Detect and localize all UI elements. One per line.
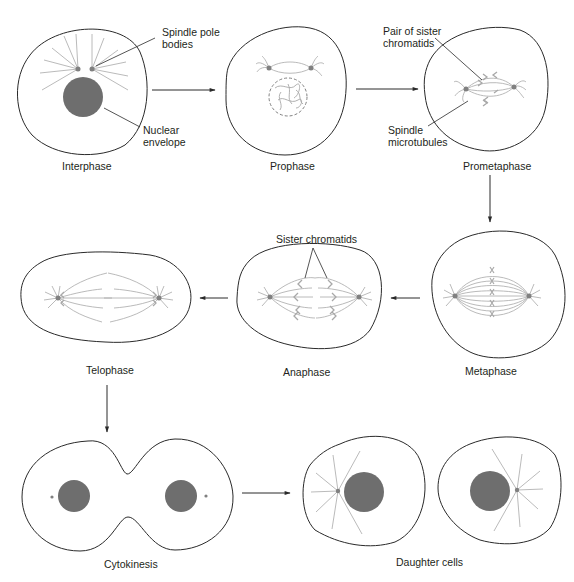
nuclear-envelope-dashed (269, 78, 307, 116)
spindle-pole-body-icon (157, 296, 162, 301)
spindle-pole-body-icon (56, 296, 61, 301)
interphase-cell (17, 29, 155, 155)
spindle-pole-body-icon (90, 67, 95, 72)
condensing-chromosomes (275, 84, 303, 110)
prophase-cell (226, 27, 346, 155)
stage-label-metaphase: Metaphase (465, 365, 517, 377)
spindle-pole-body-icon (512, 85, 517, 90)
spindle-pole-body-icon (204, 494, 207, 497)
stage-label-anaphase: Anaphase (283, 366, 330, 378)
anaphase-cell (237, 243, 382, 348)
metaphase-cell (432, 231, 565, 358)
nucleus-icon (63, 77, 103, 117)
flow-arrows (107, 89, 490, 493)
spindle-pole-body-icon (527, 294, 532, 299)
nucleus-icon (344, 472, 384, 512)
telophase-cell (21, 252, 191, 342)
nucleus-icon (470, 471, 510, 511)
stage-label-interphase: Interphase (62, 160, 112, 172)
callout-sister-chromatids: Sister chromatids (276, 233, 357, 245)
spindle-pole-body-icon (268, 295, 273, 300)
chromatid-pairs (478, 72, 498, 106)
spindle-pole-body-icon (309, 66, 314, 71)
spindle-pole-body-icon (453, 294, 458, 299)
stage-label-cytokinesis: Cytokinesis (104, 558, 158, 570)
cytokinesis-cell (22, 439, 233, 551)
spindle-pole-body-icon (336, 489, 340, 493)
callout-spindle-microtubules: Spindle microtubules (388, 124, 448, 148)
nucleus-icon (165, 480, 197, 512)
daughter-cell-left (303, 436, 425, 545)
stage-label-prometaphase: Prometaphase (463, 160, 531, 172)
stage-label-prophase: Prophase (270, 160, 315, 172)
daughter-cell-right (438, 437, 561, 544)
spindle-pole-body-icon (76, 67, 81, 72)
nucleus-icon (58, 480, 90, 512)
callout-nuclear-envelope: Nuclear envelope (143, 124, 186, 148)
spindle-pole-body-icon (267, 66, 272, 71)
spindle-pole-body-icon (357, 295, 362, 300)
callout-pair-of-sister-chromatids: Pair of sister chromatids (383, 25, 441, 49)
spindle-pole-body-icon (515, 488, 519, 492)
spindle-pole-body-icon (464, 87, 469, 92)
aligned-chromosomes (490, 267, 494, 317)
stage-label-daughter-cells: Daughter cells (396, 556, 463, 568)
stage-label-telophase: Telophase (86, 364, 134, 376)
spindle-pole-body-icon (50, 495, 53, 498)
mitosis-diagram: Interphase Prophase Prometaphase Metapha… (0, 0, 574, 582)
callout-spindle-pole-bodies: Spindle pole bodies (162, 26, 220, 50)
separating-chromatids (294, 280, 336, 320)
